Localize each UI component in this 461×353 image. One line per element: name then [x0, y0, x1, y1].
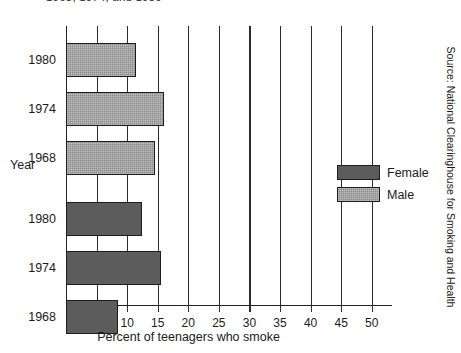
source-note: Source: National Clearinghouse for Smoki…	[443, 0, 459, 353]
year-label-female-1968: 1968	[14, 310, 56, 324]
tick-label-20: 20	[182, 316, 195, 330]
legend-label-female: Female	[387, 166, 429, 180]
tick-25	[219, 306, 220, 312]
tick-label-10: 10	[120, 316, 133, 330]
tick-label-45: 45	[335, 316, 348, 330]
tick-label-25: 25	[212, 316, 225, 330]
bar-male-1980	[66, 43, 136, 77]
legend-item-female: Female	[337, 165, 429, 180]
chart-title: 1968, 1974, and 1980	[46, 0, 162, 3]
tick-45	[341, 306, 342, 312]
x-axis-label: Percent of teenagers who smoke	[0, 330, 461, 344]
legend-swatch-female-icon	[337, 165, 380, 180]
tick-label-30: 30	[243, 316, 256, 330]
bar-male-1968	[66, 141, 155, 175]
bar-female-1968	[66, 300, 118, 334]
bar-male-1974	[66, 92, 164, 126]
year-label-female-1980: 1980	[14, 212, 56, 226]
tick-label-35: 35	[273, 316, 286, 330]
source-note-text: Source: National Clearinghouse for Smoki…	[445, 46, 457, 307]
bar-female-1980	[66, 202, 142, 236]
tick-20	[188, 306, 189, 312]
legend: Female Male	[337, 165, 429, 202]
x-axis-label-text: Percent of teenagers who smoke	[97, 330, 280, 344]
gridline-25	[219, 26, 220, 306]
bar-chart: 1968, 1974, and 1980 5101520253035404550…	[0, 0, 461, 353]
legend-swatch-male-icon	[337, 187, 380, 202]
tick-label-15: 15	[151, 316, 164, 330]
legend-label-male: Male	[387, 188, 414, 202]
tick-30	[249, 306, 250, 312]
tick-35	[280, 306, 281, 312]
gridline-20	[188, 26, 189, 306]
gridline-40	[311, 26, 312, 306]
tick-40	[311, 306, 312, 312]
bar-female-1974	[66, 251, 161, 285]
tick-label-40: 40	[304, 316, 317, 330]
tick-15	[158, 306, 159, 312]
y-axis-label: Year	[10, 158, 35, 172]
year-label-female-1974: 1974	[14, 261, 56, 275]
tick-50	[372, 306, 373, 312]
tick-10	[127, 306, 128, 312]
tick-label-50: 50	[365, 316, 378, 330]
gridline-30	[249, 26, 250, 306]
year-label-male-1980: 1980	[14, 53, 56, 67]
gridline-35	[280, 26, 281, 306]
legend-item-male: Male	[337, 187, 429, 202]
year-label-male-1974: 1974	[14, 102, 56, 116]
